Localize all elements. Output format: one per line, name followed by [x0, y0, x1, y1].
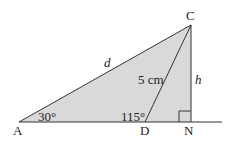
label-N: N: [184, 123, 194, 138]
label-angle-D: 115°: [121, 109, 145, 124]
label-side-5cm: 5 cm: [138, 72, 164, 87]
label-A: A: [13, 123, 23, 138]
label-D: D: [140, 123, 149, 138]
label-C: C: [186, 8, 195, 23]
label-side-d: d: [104, 55, 111, 70]
label-side-h: h: [195, 72, 202, 87]
label-angle-A: 30°: [38, 109, 56, 124]
triangle-diagram: C A D N d 5 cm h 30° 115°: [0, 0, 234, 143]
